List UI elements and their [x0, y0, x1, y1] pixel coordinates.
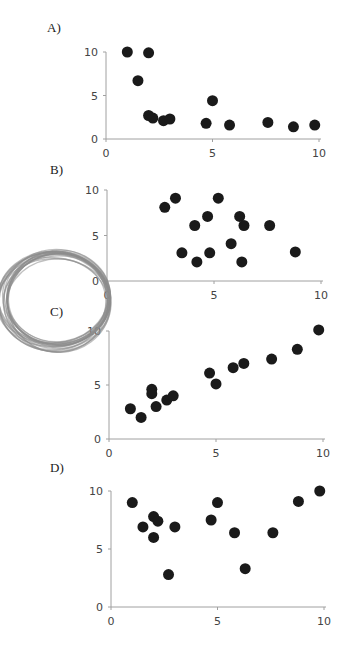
data-point: [191, 256, 202, 267]
y-tick-label: 10: [89, 485, 103, 498]
data-point: [168, 390, 179, 401]
data-point: [238, 358, 249, 369]
data-point: [228, 362, 239, 373]
x-tick-label: 5: [214, 615, 221, 628]
scatter-panel-a: 05100510: [84, 46, 326, 160]
data-point: [314, 486, 325, 497]
data-point: [292, 344, 303, 355]
x-tick-label: 5: [213, 447, 220, 460]
data-point: [224, 120, 235, 131]
x-tick-label: 0: [103, 147, 110, 160]
y-tick-label: 0: [96, 601, 103, 614]
data-point: [262, 117, 273, 128]
data-point: [267, 527, 278, 538]
x-tick-label: 10: [316, 447, 330, 460]
coiled-wire-decoration: [0, 238, 122, 363]
data-point: [211, 378, 222, 389]
y-tick-label: 5: [96, 543, 103, 556]
data-point: [132, 75, 143, 86]
data-point: [266, 354, 277, 365]
data-point: [151, 401, 162, 412]
y-tick-label: 10: [85, 184, 99, 197]
data-point: [207, 95, 218, 106]
data-point: [169, 521, 180, 532]
data-point: [288, 121, 299, 132]
x-tick-label: 10: [317, 615, 331, 628]
data-point: [170, 193, 181, 204]
data-point: [164, 113, 175, 124]
data-point: [226, 238, 237, 249]
x-tick-label: 5: [209, 147, 216, 160]
data-point: [136, 412, 147, 423]
data-point: [152, 516, 163, 527]
data-point: [213, 193, 224, 204]
data-point: [240, 563, 251, 574]
y-tick-label: 0: [94, 433, 101, 446]
data-point: [236, 256, 247, 267]
data-point: [238, 220, 249, 231]
data-point: [264, 220, 275, 231]
data-point: [293, 496, 304, 507]
data-point: [147, 113, 158, 124]
y-tick-label: 10: [84, 46, 98, 59]
x-tick-label: 0: [108, 615, 115, 628]
data-point: [309, 120, 320, 131]
scatter-panel-c: 05100510: [87, 324, 330, 460]
data-point: [212, 497, 223, 508]
data-point: [201, 118, 212, 129]
data-point: [204, 247, 215, 258]
data-point: [159, 202, 170, 213]
data-point: [143, 47, 154, 58]
data-point: [290, 246, 301, 257]
y-tick-label: 5: [94, 379, 101, 392]
data-point: [313, 324, 324, 335]
x-tick-label: 10: [314, 289, 328, 302]
data-point: [163, 569, 174, 580]
x-tick-label: 0: [106, 447, 113, 460]
y-tick-label: 0: [91, 133, 98, 146]
x-tick-label: 10: [312, 147, 326, 160]
data-point: [176, 247, 187, 258]
data-point: [206, 515, 217, 526]
data-point: [229, 527, 240, 538]
data-point: [146, 388, 157, 399]
data-point: [202, 211, 213, 222]
data-point: [125, 403, 136, 414]
data-point: [127, 497, 138, 508]
x-tick-label: 5: [211, 289, 218, 302]
y-tick-label: 5: [91, 90, 98, 103]
data-point: [148, 532, 159, 543]
data-point: [137, 521, 148, 532]
scatter-panel-d: 05100510: [89, 485, 331, 628]
data-point: [204, 368, 215, 379]
data-point: [122, 47, 133, 58]
data-point: [189, 220, 200, 231]
